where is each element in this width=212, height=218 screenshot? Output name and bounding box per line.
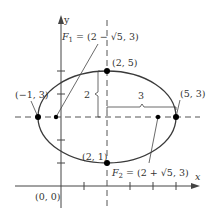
origin-label: (0, 0) bbox=[35, 191, 61, 202]
right-vertex-label: (5, 3) bbox=[180, 88, 206, 99]
f1-label: F1 = (2 − √5, 3) bbox=[61, 31, 139, 44]
y-axis bbox=[57, 15, 65, 208]
semi-major-bracket bbox=[107, 104, 176, 110]
f1-leader-line bbox=[56, 44, 98, 117]
y-axis-label: y bbox=[63, 14, 70, 25]
semi-minor-label: 2 bbox=[84, 89, 90, 100]
semi-major-label: 3 bbox=[138, 90, 144, 101]
right-vertex-point bbox=[173, 114, 179, 120]
semi-minor-bracket bbox=[95, 71, 100, 117]
x-axis-label: x bbox=[195, 171, 201, 182]
left-vertex-label: (−1, 3) bbox=[15, 89, 49, 100]
f2-value: = (2 + √5, 3) bbox=[123, 167, 189, 178]
left-vertex-point bbox=[35, 114, 41, 120]
top-vertex-label: (2, 5) bbox=[112, 57, 138, 68]
f2-focus-point bbox=[156, 115, 160, 119]
f2-label: F2 = (2 + √5, 3) bbox=[111, 167, 189, 180]
f1-focus-point bbox=[54, 115, 58, 119]
x-axis-arrow-icon bbox=[191, 183, 200, 189]
top-vertex-point bbox=[104, 68, 110, 74]
bottom-vertex-label: (2, 1) bbox=[82, 151, 108, 162]
ellipse-diagram: y x (0, 0) (−1, 3) (5, 3) (2, 5) (2, 1) … bbox=[0, 0, 212, 218]
f2-leader-line bbox=[149, 117, 158, 163]
f1-value: = (2 − √5, 3) bbox=[73, 31, 139, 42]
